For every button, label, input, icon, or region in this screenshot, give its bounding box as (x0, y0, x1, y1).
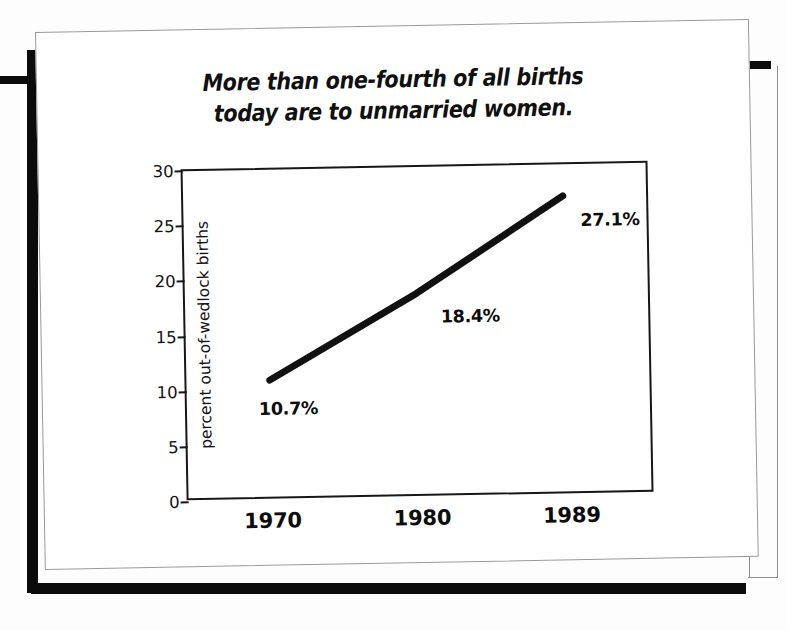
y-tick-mark (180, 446, 188, 448)
frame-right-bottom-hairline (748, 577, 778, 578)
y-tick-mark (181, 501, 189, 503)
frame-right-outer-hairline (777, 66, 778, 578)
figure-card: More than one-fourth of all births today… (35, 19, 759, 570)
plot-area: percent out-of-wedlock births 0510152025… (181, 161, 654, 501)
x-tick-label-1970: 1970 (244, 508, 302, 533)
y-tick-mark (177, 281, 185, 283)
y-tick-label: 15 (155, 327, 176, 346)
series-line-out-of-wedlock-births (266, 196, 566, 380)
frame-bottom-bar (31, 583, 746, 594)
chart-title: More than one-fourth of all births today… (79, 59, 707, 133)
y-tick-label: 10 (156, 383, 177, 402)
x-tick-label-1989: 1989 (543, 503, 601, 528)
y-tick-label: 25 (153, 217, 174, 236)
y-tick-label: 5 (168, 438, 179, 457)
y-tick-label: 30 (152, 162, 173, 181)
y-tick-mark (176, 225, 184, 227)
y-tick-label: 20 (154, 272, 175, 291)
data-point-label-1980: 18.4% (441, 306, 501, 327)
y-tick-mark (175, 170, 183, 172)
y-tick-mark (179, 391, 187, 393)
data-point-label-1970: 10.7% (259, 398, 319, 419)
x-tick-label-1980: 1980 (393, 505, 451, 530)
y-tick-label: 0 (169, 493, 180, 512)
y-tick-mark (178, 336, 186, 338)
frame-left-tab-bar (0, 76, 30, 84)
data-point-label-1989: 27.1% (580, 209, 640, 230)
chart-page: More than one-fourth of all births today… (0, 0, 787, 630)
